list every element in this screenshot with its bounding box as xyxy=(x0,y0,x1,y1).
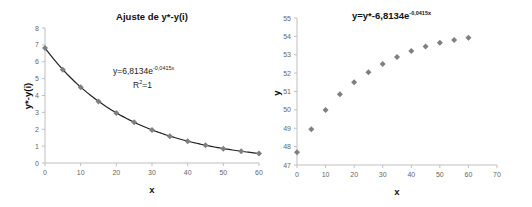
right-x-axis-label: x xyxy=(394,186,400,197)
y-tick-label: 6 xyxy=(35,58,39,65)
data-point-marker xyxy=(351,79,357,85)
data-point-marker xyxy=(380,61,386,67)
right-y-axis-label: y xyxy=(271,90,282,96)
y-tick-label: 1 xyxy=(35,143,39,150)
x-tick-label: 20 xyxy=(350,171,358,178)
y-tick-label: 50 xyxy=(283,106,291,113)
y-tick-label: 52 xyxy=(283,70,291,77)
x-tick-label: 30 xyxy=(148,169,156,176)
x-tick-label: 20 xyxy=(112,169,120,176)
y-tick-label: 47 xyxy=(283,162,291,169)
x-tick-label: 70 xyxy=(493,171,501,178)
x-tick-label: 0 xyxy=(295,171,299,178)
data-point-marker xyxy=(408,48,414,54)
data-point-marker xyxy=(323,107,329,113)
x-tick-label: 60 xyxy=(255,169,263,176)
data-point-marker xyxy=(131,119,137,125)
data-point-marker xyxy=(423,43,429,49)
x-tick-label: 60 xyxy=(465,171,473,178)
data-point-marker xyxy=(167,133,173,139)
y-tick-label: 55 xyxy=(283,15,291,22)
x-tick-label: 10 xyxy=(322,171,330,178)
x-tick-label: 0 xyxy=(43,169,47,176)
data-point-marker xyxy=(394,54,400,60)
left-chart: 0123456780102030405060 xyxy=(35,25,263,177)
data-point-marker xyxy=(149,127,155,133)
data-point-marker xyxy=(465,35,471,41)
y-tick-label: 53 xyxy=(283,51,291,58)
x-tick-label: 50 xyxy=(219,169,227,176)
right-chart: 474849505152535455010203040506070 xyxy=(283,15,501,179)
y-tick-label: 2 xyxy=(35,126,39,133)
y-tick-label: 5 xyxy=(35,75,39,82)
data-point-marker xyxy=(308,126,314,132)
data-point-marker xyxy=(256,151,262,157)
data-point-marker xyxy=(203,142,209,148)
data-point-marker xyxy=(185,138,191,144)
left-chart-title: Ajuste de y*-y(i) xyxy=(116,11,188,22)
data-point-marker xyxy=(365,69,371,75)
charts-canvas: 0123456780102030405060 47484950515253545… xyxy=(0,0,532,207)
y-tick-label: 8 xyxy=(35,25,39,32)
left-y-axis-label: y*-y(i) xyxy=(22,83,33,109)
y-tick-label: 54 xyxy=(283,33,291,40)
x-tick-label: 40 xyxy=(184,169,192,176)
y-tick-label: 7 xyxy=(35,41,39,48)
data-point-marker xyxy=(220,146,226,152)
x-tick-label: 30 xyxy=(379,171,387,178)
x-tick-label: 40 xyxy=(407,171,415,178)
left-r-squared: R2=1 xyxy=(133,79,152,90)
data-point-marker xyxy=(437,40,443,46)
x-tick-label: 10 xyxy=(77,169,85,176)
y-tick-label: 0 xyxy=(35,160,39,167)
y-tick-label: 48 xyxy=(283,143,291,150)
x-tick-label: 50 xyxy=(436,171,444,178)
right-chart-title: y=y*-6,8134e-0,0415x xyxy=(352,10,432,21)
trendline xyxy=(45,48,259,153)
y-tick-label: 3 xyxy=(35,109,39,116)
y-tick-label: 49 xyxy=(283,125,291,132)
left-equation: y=6,8134e-0,0415x xyxy=(113,65,175,76)
y-tick-label: 51 xyxy=(283,88,291,95)
data-point-marker xyxy=(337,91,343,97)
left-x-axis-label: x xyxy=(149,184,155,195)
data-point-marker xyxy=(238,148,244,154)
data-point-marker xyxy=(451,37,457,43)
data-point-marker xyxy=(294,149,300,155)
y-tick-label: 4 xyxy=(35,92,39,99)
